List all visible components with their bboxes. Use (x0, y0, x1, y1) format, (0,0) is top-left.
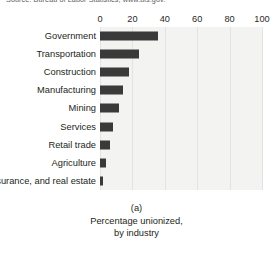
bar-manufacturing (100, 86, 123, 95)
x-tick-label-0: 0 (97, 14, 102, 24)
caption-line-1: Percentage unionized, (0, 215, 273, 228)
bar-row: Government (0, 27, 273, 45)
bar-row: Transportation (0, 45, 273, 63)
plot-wrapper: GovernmentTransportationConstructionManu… (0, 27, 273, 194)
x-tick-label-20: 20 (127, 14, 137, 24)
bar-finance-insurance-and-real-estate (100, 176, 103, 185)
bar-row: Finance, insurance, and real estate (0, 172, 273, 190)
bar-row: Services (0, 118, 273, 136)
bar-services (100, 122, 113, 131)
category-label-transportation: Transportation (0, 49, 96, 59)
bar-row: Construction (0, 63, 273, 81)
bar-government (100, 32, 158, 41)
caption-line-2: by industry (0, 227, 273, 240)
source-note: Source: Bureau of Labor Statistics, www.… (6, 0, 271, 6)
category-label-construction: Construction (0, 67, 96, 77)
bar-row: Mining (0, 99, 273, 117)
x-tick-label-100: 100 (254, 14, 269, 24)
bar-mining (100, 104, 119, 113)
bar-retail-trade (100, 140, 110, 149)
bar-transportation (100, 50, 139, 59)
category-label-finance-insurance-and-real-estate: Finance, insurance, and real estate (0, 176, 96, 187)
bar-rows: GovernmentTransportationConstructionManu… (0, 27, 273, 190)
category-label-government: Government (0, 31, 96, 41)
bar-row: Retail trade (0, 136, 273, 154)
x-tick-label-80: 80 (224, 14, 234, 24)
x-tick-label-60: 60 (192, 14, 202, 24)
bar-row: Manufacturing (0, 81, 273, 99)
bar-construction (100, 68, 129, 77)
figure-panel-a: Source: Bureau of Labor Statistics, www.… (0, 0, 273, 258)
figure-caption: (a) Percentage unionized, by industry (0, 202, 273, 240)
x-tick-label-40: 40 (160, 14, 170, 24)
caption-panel-letter: (a) (0, 202, 273, 215)
category-label-manufacturing: Manufacturing (0, 85, 96, 95)
category-label-services: Services (0, 122, 96, 132)
bar-chart: 020406080100 GovernmentTransportationCon… (0, 14, 273, 194)
category-label-retail-trade: Retail trade (0, 140, 96, 150)
category-label-agriculture: Agriculture (0, 158, 96, 168)
x-axis-tick-labels: 020406080100 (0, 14, 273, 27)
category-label-mining: Mining (0, 103, 96, 113)
bar-row: Agriculture (0, 154, 273, 172)
bar-agriculture (100, 158, 106, 167)
